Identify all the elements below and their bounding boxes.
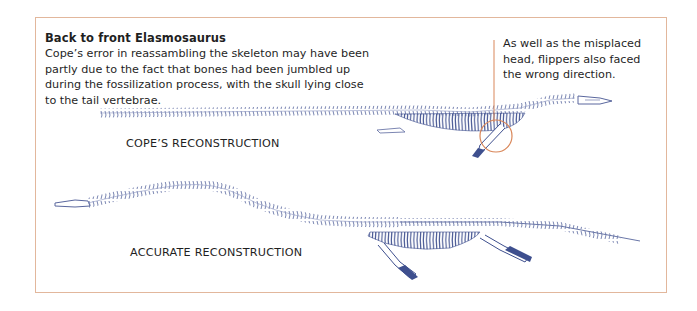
accurate-skull-icon (55, 200, 90, 207)
skeleton-illustrations (0, 0, 697, 311)
cope-reconstruction-label: COPE’S RECONSTRUCTION (126, 137, 280, 150)
accurate-reconstruction-label: ACCURATE RECONSTRUCTION (130, 246, 302, 259)
accurate-skeleton (55, 184, 640, 280)
